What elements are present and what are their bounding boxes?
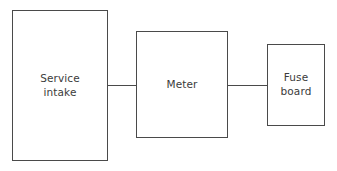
node-label-fuse-board: Fuse board: [281, 71, 312, 99]
diagram-node-fuse-board[interactable]: Fuse board: [267, 44, 325, 126]
diagram-canvas: Service intake Meter Fuse board: [0, 0, 337, 171]
diagram-node-meter[interactable]: Meter: [136, 31, 228, 138]
diagram-node-service-intake[interactable]: Service intake: [12, 10, 108, 161]
node-label-meter: Meter: [167, 78, 198, 92]
connector-service-intake-to-meter: [107, 85, 137, 86]
node-label-service-intake: Service intake: [40, 72, 80, 100]
connector-meter-to-fuse-board: [227, 85, 268, 86]
